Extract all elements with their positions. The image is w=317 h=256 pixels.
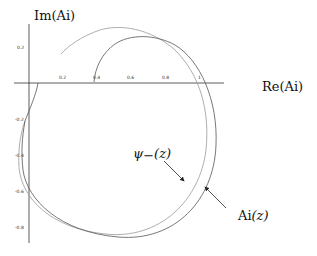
airy-curve — [22, 37, 216, 238]
airy-spiral-diagram: 0.2 0.4 0.6 0.8 1 0.2 -0.2 -0.4 -0.6 -0.… — [0, 0, 317, 256]
x-axis-label: Re(Ai) — [262, 79, 303, 94]
diagram-svg: 0.2 0.4 0.6 0.8 1 0.2 -0.2 -0.4 -0.6 -0.… — [0, 0, 317, 256]
y-tick-neg0.6: -0.6 — [15, 189, 24, 194]
curve-start-segment — [25, 83, 38, 121]
psi-minus-curve — [19, 27, 207, 234]
x-tick-0.8: 0.8 — [162, 75, 169, 80]
x-tick-0.6: 0.6 — [127, 75, 134, 80]
y-tick-neg0.2: -0.2 — [15, 117, 24, 122]
y-tick-0.2: 0.2 — [17, 45, 24, 50]
x-tick-0.2: 0.2 — [59, 75, 66, 80]
airy-label: Ai(z) — [237, 208, 269, 223]
psi-minus-label: ψ−(z) — [133, 146, 171, 163]
x-tick-1: 1 — [198, 75, 201, 80]
y-tick-neg0.4: -0.4 — [15, 153, 24, 158]
y-axis-label: Im(Ai) — [34, 8, 75, 23]
psi-minus-arrow — [164, 161, 184, 181]
y-tick-neg0.8: -0.8 — [15, 225, 24, 230]
airy-arrow — [205, 187, 226, 208]
